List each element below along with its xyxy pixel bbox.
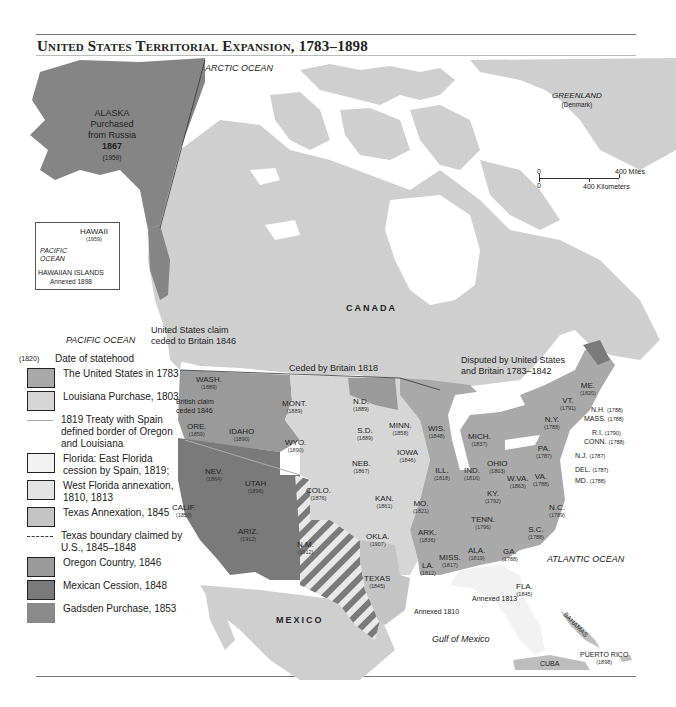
legend-item-louisiana: Louisiana Purchase, 1803 (13, 391, 183, 411)
scale-zero-km: 0 (537, 182, 541, 189)
state-label: OHIO(1803) (487, 459, 507, 474)
state-label: MD. (1788) (575, 476, 606, 486)
state-label: N.J. (1787) (575, 451, 605, 461)
mexico-label: MEXICO (276, 615, 324, 625)
state-label: N.C.(1789) (549, 503, 565, 518)
hawaii-inset: HAWAII (1959) PACIFIC OCEAN HAWAIIAN ISL… (35, 222, 120, 290)
state-label: FLA.(1845) (516, 582, 533, 597)
state-label: MINN.(1858) (389, 421, 412, 436)
state-label: KY.(1792) (485, 489, 501, 504)
legend-swatch (27, 603, 55, 623)
scale-miles-label: 400 Miles (615, 168, 645, 175)
cuba-label: CUBA (540, 659, 559, 668)
state-label: MO.(1821) (413, 499, 429, 514)
legend-swatch (27, 480, 55, 500)
disputed-note: Disputed by United States and Britain 17… (461, 355, 565, 377)
scale-bar: 0 400 Miles 0 400 Kilometers (537, 168, 657, 198)
legend-swatch (27, 580, 55, 600)
legend-statehood-sample: (1820) (19, 353, 53, 365)
legend-statehood-label: Date of statehood (55, 353, 134, 365)
scale-tick-mid (589, 178, 590, 182)
legend-statehood-key: (1820) Date of statehood (13, 353, 183, 365)
legend-swatch (27, 507, 55, 527)
hawaiian-islands-label: HAWAIIAN ISLANDS Annexed 1898 (38, 268, 104, 286)
state-label: KAN.(1861) (375, 494, 394, 509)
inset-pacific-label: PACIFIC OCEAN (40, 247, 67, 263)
puerto-rico-label: PUERTO RICO (1898) (580, 650, 628, 665)
state-label: MICH.(1837) (468, 432, 491, 447)
atlantic-ocean-label: ATLANTIC OCEAN (547, 554, 624, 564)
legend-item-west-florida: West Florida annexation, 1810, 1813 (13, 480, 183, 504)
state-label: ARK.(1836) (418, 528, 437, 543)
state-label: ORE.(1859) (187, 422, 207, 437)
map-legend: (1820) Date of statehood The United Stat… (13, 353, 183, 626)
legend-swatch (27, 391, 55, 411)
state-label: MONT.(1889) (282, 399, 307, 414)
legend-swatch (27, 368, 55, 388)
state-label: DEL. (1787) (575, 465, 608, 475)
state-label: COLO.(1876) (306, 486, 331, 501)
state-label: GA.(1788) (502, 547, 518, 562)
state-label: WIS.(1848) (428, 424, 445, 439)
state-label: N.Y.(1788) (544, 415, 560, 430)
gulf-of-mexico-label: Gulf of Mexico (432, 634, 490, 644)
scale-km-label: 400 Kilometers (583, 183, 630, 190)
legend-item-texas-boundary: Texas boundary claimed by U.S., 1845–184… (13, 530, 183, 554)
state-label: ARIZ.(1912) (238, 527, 258, 542)
state-label: VA.(1788) (533, 472, 549, 487)
annexed-1810-note: Annexed 1810 (414, 606, 459, 617)
state-label: S.D.(1889) (357, 426, 373, 441)
legend-swatch (27, 453, 55, 473)
state-label: MASS. (1788) (584, 414, 624, 424)
state-label: WASH.(1889) (196, 375, 222, 390)
legend-item-texas: Texas Annexation, 1845 (13, 507, 183, 527)
state-label: IND.(1816) (464, 466, 480, 481)
legend-item-gadsden: Gadsden Purchase, 1853 (13, 603, 183, 623)
pacific-ocean-label: PACIFIC OCEAN (66, 335, 135, 345)
state-label: OKLA.(1907) (366, 532, 390, 547)
state-label: VT.(1791) (560, 396, 576, 411)
legend-dash-symbol (27, 536, 53, 537)
state-label: ALA.(1819) (468, 546, 485, 561)
state-label: TENN.(1796) (471, 515, 495, 530)
greenland-landmass (470, 58, 676, 170)
state-label: N.M.(1912) (297, 540, 314, 555)
legend-line-symbol (27, 420, 53, 421)
scale-tick-left (539, 174, 540, 182)
state-label: WYO.(1890) (285, 438, 306, 453)
scale-line (539, 178, 619, 179)
greenland-label: GREENLAND (Denmark) (552, 91, 602, 109)
legend-item-east-florida: Florida: East Florida cession by Spain, … (13, 453, 183, 477)
state-label: CONN. (1788) (584, 437, 624, 447)
state-label: S.C.(1788) (528, 525, 544, 540)
state-label: ILL.(1818) (434, 466, 450, 481)
legend-item-mexican-cession: Mexican Cession, 1848 (13, 580, 183, 600)
state-label: IDAHO(1890) (229, 427, 254, 442)
legend-item-treaty-1819: 1819 Treaty with Spain defined border of… (13, 414, 183, 450)
ceded-1818-note: Ceded by Britain 1818 (289, 363, 378, 374)
mexican-cession (178, 438, 312, 580)
state-label: ME.(1820) (580, 381, 596, 396)
alaska-label: ALASKA Purchased from Russia 1867 (1959) (88, 108, 136, 163)
hawaii-label: HAWAII (1959) (80, 227, 108, 242)
us-claim-ceded-note: United States claim ceded to Britain 184… (151, 325, 236, 347)
state-label: NEB.(1867) (352, 459, 371, 474)
state-label: TEXAS(1845) (364, 574, 390, 589)
state-label: N.D.(1889) (353, 397, 369, 412)
state-label: NEV.(1864) (205, 467, 223, 482)
arctic-ocean-label: ARCTIC OCEAN (205, 63, 273, 73)
state-label: W.VA.(1863) (507, 474, 529, 489)
canada-label: CANADA (346, 303, 397, 313)
state-label: LA.(1812) (420, 561, 436, 576)
legend-swatch (27, 557, 55, 577)
state-label: MISS.(1817) (439, 553, 461, 568)
legend-item-us-1783: The United States in 1783 (13, 368, 183, 388)
state-label: UTAH(1896) (245, 479, 266, 494)
legend-item-oregon: Oregon Country, 1846 (13, 557, 183, 577)
annexed-1813-note: Annexed 1813 (472, 593, 517, 604)
state-label: IOWA(1846) (397, 448, 418, 463)
state-label: PA.(1787) (536, 444, 552, 459)
